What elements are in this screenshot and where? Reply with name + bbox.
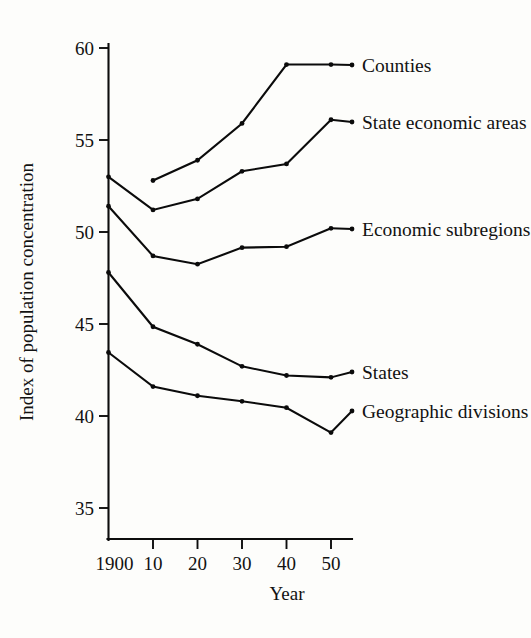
y-tick-label: 40 [75, 406, 94, 427]
series-label-state-economic-areas: State economic areas [362, 112, 527, 133]
y-tick-label: 55 [75, 130, 94, 151]
series-leader-dot [350, 370, 355, 375]
series-counties [151, 62, 334, 183]
data-point [106, 204, 111, 209]
data-point [106, 350, 111, 355]
series-leader-line [331, 120, 352, 122]
data-point [240, 399, 245, 404]
data-point [195, 393, 200, 398]
x-axis-title: Year [269, 583, 305, 604]
data-point [240, 245, 245, 250]
series-leader-line [331, 372, 352, 377]
data-point [284, 373, 289, 378]
data-point [151, 208, 156, 213]
series-label-counties: Counties [362, 55, 431, 76]
series-states [106, 270, 333, 380]
series-economic-subregions [106, 204, 333, 267]
x-axis: 19001020304050 Year [96, 539, 353, 604]
series-leader-dot [350, 227, 355, 232]
data-point [151, 324, 156, 329]
data-point [195, 262, 200, 267]
data-point [195, 196, 200, 201]
data-point [284, 244, 289, 249]
data-point [240, 364, 245, 369]
series-label-states: States [362, 362, 409, 383]
data-point [106, 174, 111, 179]
data-point [106, 270, 111, 275]
series-geographic-divisions [106, 350, 333, 435]
data-point [284, 405, 289, 410]
line-chart: 354045505560 Index of population concent… [0, 0, 531, 638]
data-point [151, 384, 156, 389]
data-point [151, 178, 156, 183]
data-point [284, 162, 289, 167]
series-path [109, 206, 332, 264]
x-tick-label: 10 [144, 553, 163, 574]
series-leader-dot [350, 409, 355, 414]
y-tick-label: 60 [75, 38, 94, 59]
series-leader-line [331, 411, 352, 433]
data-point [240, 169, 245, 174]
data-point [284, 62, 289, 67]
series-layer [106, 62, 333, 435]
x-tick-label: 50 [322, 553, 341, 574]
figure-page: 354045505560 Index of population concent… [0, 0, 531, 638]
series-labels: CountiesState economic areasEconomic sub… [362, 55, 530, 422]
series-path [109, 272, 332, 377]
series-label-geographic-divisions: Geographic divisions [362, 401, 528, 422]
series-path [109, 120, 332, 210]
series-leader-dot [350, 120, 355, 125]
leader-lines [331, 63, 354, 433]
y-tick-labels: 354045505560 [75, 38, 94, 519]
y-axis: 354045505560 Index of population concent… [16, 38, 109, 540]
x-tick-marks [153, 539, 331, 549]
x-tick-labels: 19001020304050 [96, 553, 341, 574]
y-tick-label: 50 [75, 222, 94, 243]
x-tick-label: 1900 [96, 553, 134, 574]
series-path [109, 353, 332, 433]
y-tick-label: 45 [75, 314, 94, 335]
y-tick-label: 35 [75, 498, 94, 519]
y-tick-marks [99, 48, 109, 508]
series-state-economic-areas [106, 117, 333, 212]
series-leader-line [331, 228, 352, 229]
data-point [195, 158, 200, 163]
x-tick-label: 20 [188, 553, 207, 574]
y-axis-title: Index of population concentration [16, 163, 37, 422]
series-label-economic-subregions: Economic subregions [362, 219, 530, 240]
data-point [240, 121, 245, 126]
data-point [195, 342, 200, 347]
x-tick-label: 30 [233, 553, 252, 574]
data-point [151, 254, 156, 259]
series-leader-dot [350, 63, 355, 68]
x-tick-label: 40 [277, 553, 296, 574]
